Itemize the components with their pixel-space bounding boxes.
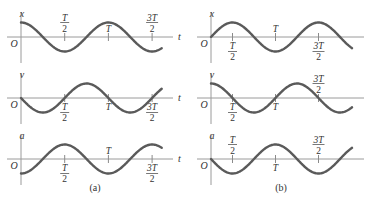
- tick-label: T: [106, 146, 112, 156]
- tick-label-denominator: 2: [62, 24, 67, 34]
- tick-label: T: [106, 102, 112, 112]
- tick-label-numerator: T: [62, 13, 68, 23]
- tick-label-numerator: 3T: [312, 41, 324, 51]
- shm-graphs-figure: xOtT2T3T2vOtT2T3T2aOtT2T3T2(a)xOT2T3T2vO…: [0, 0, 382, 201]
- tick-label: T: [273, 102, 279, 112]
- tick-label-denominator: 2: [150, 24, 155, 34]
- quantity-axis-label: v: [210, 69, 215, 80]
- origin-label: O: [10, 38, 17, 49]
- quantity-axis-label: x: [209, 8, 215, 19]
- origin-label: O: [200, 38, 207, 49]
- tick-label-denominator: 2: [62, 113, 67, 123]
- tick-T: T: [273, 155, 279, 173]
- origin-label: O: [200, 160, 207, 171]
- quantity-axis-label: a: [210, 130, 215, 141]
- origin-label: O: [200, 99, 207, 110]
- tick-label-numerator: 3T: [146, 163, 158, 173]
- tick-label: T: [273, 163, 279, 173]
- origin-label: O: [10, 160, 17, 171]
- tick-label-denominator: 2: [230, 146, 235, 156]
- quantity-axis-label: a: [20, 130, 25, 141]
- quantity-axis-label: v: [20, 69, 25, 80]
- tick-label-denominator: 2: [230, 52, 235, 62]
- tick-label-denominator: 2: [316, 146, 321, 156]
- time-axis-label: t: [178, 153, 181, 164]
- tick-label-denominator: 2: [316, 52, 321, 62]
- time-axis-label: t: [178, 31, 181, 42]
- panel-caption: (b): [275, 182, 287, 194]
- plot-a-vs-t: aOT2T3T2: [197, 130, 364, 185]
- panel-b: xOT2T3T2vOT2T3T2aOT2T3T2(b): [197, 8, 364, 194]
- origin-label: O: [10, 99, 17, 110]
- tick-label-numerator: T: [230, 41, 236, 51]
- plot-x-vs-t: xOT2T3T2: [197, 8, 364, 63]
- tick-label-numerator: 3T: [312, 135, 324, 145]
- tick-label-numerator: T: [230, 135, 236, 145]
- tick-label-denominator: 2: [230, 113, 235, 123]
- tick-label-numerator: T: [62, 163, 68, 173]
- tick-label: T: [106, 24, 112, 34]
- tick-label-numerator: T: [62, 102, 68, 112]
- tick-label-denominator: 2: [150, 113, 155, 123]
- tick-label-denominator: 2: [316, 85, 321, 95]
- time-axis-label: t: [178, 92, 181, 103]
- panel-caption: (a): [89, 182, 100, 194]
- plot-a-vs-t: aOtT2T3T2: [7, 130, 181, 185]
- plot-v-vs-t: vOtT2T3T2: [7, 69, 181, 124]
- quantity-axis-label: x: [19, 8, 25, 19]
- plot-x-vs-t: xOtT2T3T2: [7, 8, 181, 63]
- tick-label-numerator: T: [230, 102, 236, 112]
- plot-v-vs-t: vOT2T3T2: [197, 69, 364, 124]
- tick-T: T: [106, 146, 112, 163]
- tick-label-denominator: 2: [150, 174, 155, 184]
- tick-T: T: [273, 24, 279, 41]
- tick-T: T: [106, 24, 112, 41]
- tick-label-numerator: 3T: [146, 13, 158, 23]
- tick-label: T: [273, 24, 279, 34]
- tick-label-numerator: 3T: [312, 74, 324, 84]
- panel-a: xOtT2T3T2vOtT2T3T2aOtT2T3T2(a): [7, 8, 181, 194]
- tick-label-denominator: 2: [62, 174, 67, 184]
